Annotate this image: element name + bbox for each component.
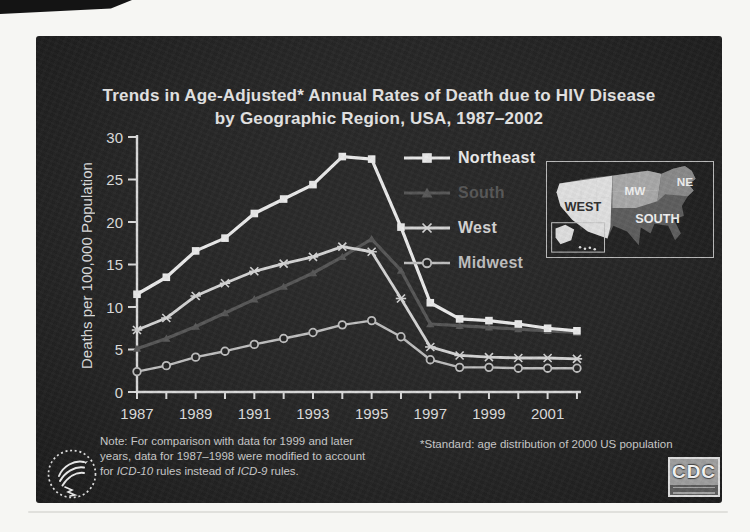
map-label-ne: NE [677,175,693,188]
map-label-mw: MW [624,184,646,197]
legend-label-northeast: Northeast [458,149,535,167]
icd-note-line3: for ICD-10 rules instead of ICD-9 rules. [100,464,380,479]
scan-artifact-wedge [0,0,132,14]
us-regions-map-inset: WEST MW NE SOUTH [546,161,714,258]
us-map-icon: WEST MW NE SOUTH [547,162,713,257]
svg-text:1997: 1997 [414,405,447,422]
legend-label-west: West [458,219,497,237]
svg-text:20: 20 [106,214,123,231]
map-label-south: SOUTH [635,211,680,226]
legend-marker-square-icon [402,150,452,166]
cdc-logo: CDC [668,457,720,497]
svg-text:1999: 1999 [472,405,505,422]
icd-note-line2: years, data for 1987–1998 were modified … [100,449,380,464]
icd10-term: ICD-10 [117,465,153,477]
cdc-logo-subtext-band [670,485,718,495]
page-shadow-line [28,511,728,513]
svg-text:25: 25 [106,171,123,188]
icd-note-line3-post: rules. [267,465,298,477]
legend-marker-asterisk-icon [402,220,452,236]
icd-note: Note: For comparison with data for 1999 … [100,434,380,479]
icd-note-line3-mid: rules instead of [153,465,237,477]
icd9-term: ICD-9 [237,465,267,477]
chart-legend: Northeast South West [402,140,535,280]
hhs-eagle-seal-icon [45,447,99,501]
legend-label-south: South [458,184,505,202]
y-ticks: 051015202530 [106,129,137,401]
legend-marker-triangle-icon [402,185,452,201]
svg-text:1989: 1989 [179,405,212,422]
standard-footnote: *Standard: age distribution of 2000 US p… [420,438,673,450]
legend-label-midwest: Midwest [458,254,523,272]
svg-text:1991: 1991 [238,405,271,422]
legend-marker-open-circle-icon [402,255,452,271]
icd-note-line1: Note: For comparison with data for 1999 … [100,434,380,449]
svg-text:10: 10 [106,299,123,316]
scanned-slide-page: { "page": { "background": "#f6f6f3", "sl… [0,0,750,532]
legend-item-west: West [402,210,535,245]
svg-text:1987: 1987 [120,405,153,422]
svg-text:2001: 2001 [531,405,564,422]
icd-note-line3-pre: for [100,465,117,477]
legend-item-midwest: Midwest [402,245,535,280]
cdc-logo-subtext-line [673,492,715,494]
cdc-slide: Trends in Age-Adjusted* Annual Rates of … [36,36,722,503]
svg-text:1993: 1993 [296,405,329,422]
legend-item-northeast: Northeast [402,140,535,175]
x-ticks: 19871989199119931995199719992001 [120,392,577,422]
hiv-trend-line-chart: 0510152025301987198919911993199519971999… [36,36,722,503]
svg-text:1995: 1995 [355,405,388,422]
cdc-logo-subtext-line [673,487,715,489]
svg-text:5: 5 [115,341,123,358]
svg-text:15: 15 [106,256,123,273]
svg-text:30: 30 [106,129,123,146]
legend-item-south: South [402,175,535,210]
svg-text:0: 0 [115,384,123,401]
map-label-west: WEST [565,199,602,214]
cdc-logo-letters: CDC [670,459,718,485]
